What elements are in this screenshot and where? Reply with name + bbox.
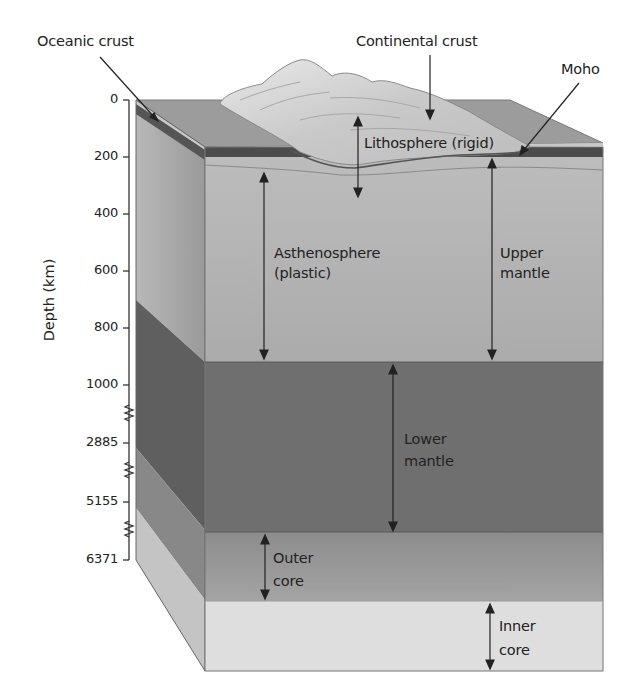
inner-core-label-line2: core [499, 641, 530, 660]
tick-6371: 6371 [68, 551, 118, 566]
continental-crust-label: Continental crust [356, 32, 477, 51]
tick-600: 600 [68, 262, 118, 277]
upper-mantle-label-line1: Upper [500, 244, 543, 263]
inner-core-label-line1: Inner [499, 617, 536, 636]
asthenosphere-label-line1: Asthenosphere [274, 244, 380, 263]
lower-mantle-label-line1: Lower [404, 430, 446, 449]
lower-mantle-label-line2: mantle [404, 452, 454, 471]
outer-core-label-line2: core [273, 572, 304, 591]
asthenosphere-label-line2: (plastic) [274, 264, 331, 283]
tick-5155: 5155 [68, 493, 118, 508]
front-inner-core [205, 601, 603, 671]
tick-1000: 1000 [68, 376, 118, 391]
lithosphere-label: Lithosphere (rigid) [364, 134, 494, 153]
outer-core-label-line1: Outer [273, 549, 313, 568]
tick-2885: 2885 [68, 434, 118, 449]
tick-0: 0 [68, 91, 118, 106]
tick-800: 800 [68, 319, 118, 334]
depth-axis-title: Depth (km) [41, 245, 57, 355]
oceanic-crust-label: Oceanic crust [37, 32, 134, 51]
moho-label: Moho [561, 60, 600, 79]
tick-400: 400 [68, 205, 118, 220]
depth-axis [123, 100, 133, 560]
upper-mantle-label-line2: mantle [500, 264, 550, 283]
tick-200: 200 [68, 148, 118, 163]
